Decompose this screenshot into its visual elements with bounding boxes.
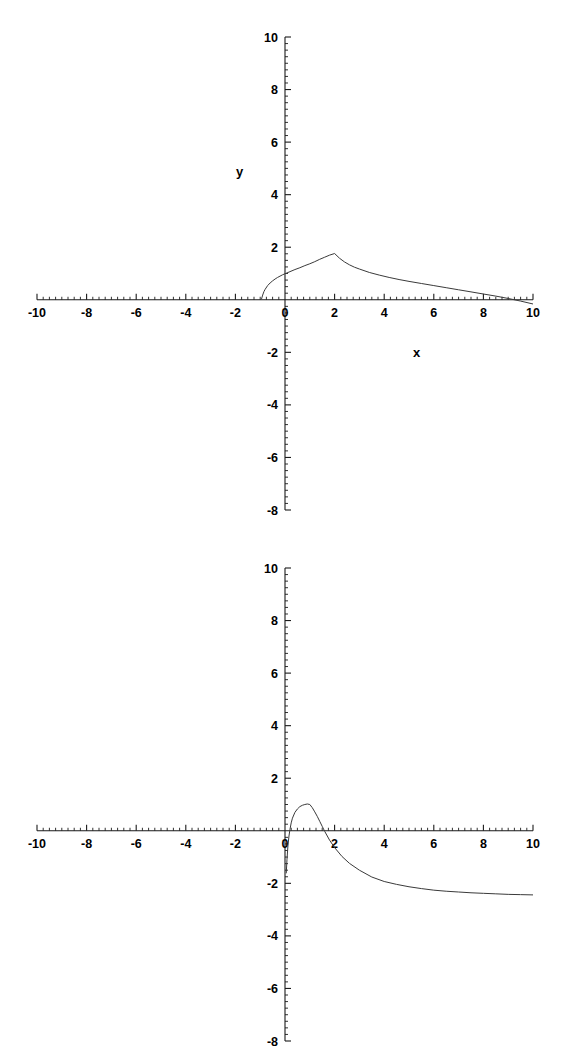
y-tick-label: 4 <box>271 719 278 733</box>
y-tick-label: 6 <box>271 136 278 150</box>
data-curve <box>261 254 533 304</box>
x-tick-label: 6 <box>430 837 437 851</box>
y-tick-label: -2 <box>267 877 278 891</box>
y-tick-label: 8 <box>271 614 278 628</box>
y-tick-label: 4 <box>271 188 278 202</box>
data-curve <box>286 804 533 895</box>
x-tick-label: -10 <box>28 306 46 320</box>
x-tick-label: -6 <box>131 306 142 320</box>
y-tick-label: 2 <box>271 772 278 786</box>
y-tick-label: -8 <box>267 504 278 518</box>
x-tick-label: 2 <box>331 306 338 320</box>
bottom-plot-svg: -10-8-6-4-20246810-8-6-4-2246810 <box>0 530 575 1046</box>
y-tick-label: -6 <box>267 451 278 465</box>
x-tick-label: -8 <box>81 306 92 320</box>
y-tick-label: 8 <box>271 83 278 97</box>
x-tick-label: -2 <box>230 306 241 320</box>
y-tick-label: 2 <box>271 241 278 255</box>
figure-canvas: -10-8-6-4-20246810-8-6-4-2246810 y x -10… <box>0 0 575 1046</box>
y-tick-label: 10 <box>264 562 278 576</box>
y-tick-label: -8 <box>267 1035 278 1046</box>
y-tick-label: -2 <box>267 346 278 360</box>
x-tick-label: 8 <box>480 306 487 320</box>
x-tick-label: -6 <box>131 837 142 851</box>
x-tick-label: 4 <box>381 306 388 320</box>
top-plot-x-axis-label: x <box>413 346 420 359</box>
x-tick-label: -2 <box>230 837 241 851</box>
x-tick-label: -10 <box>28 837 46 851</box>
x-tick-label: 6 <box>430 306 437 320</box>
top-plot-y-axis-label: y <box>236 165 243 178</box>
x-tick-label: -8 <box>81 837 92 851</box>
x-tick-label: 0 <box>282 306 289 320</box>
y-tick-label: -4 <box>267 929 278 943</box>
bottom-plot-panel: -10-8-6-4-20246810-8-6-4-2246810 y x <box>0 530 575 1046</box>
y-tick-label: -6 <box>267 982 278 996</box>
top-plot-svg: -10-8-6-4-20246810-8-6-4-2246810 <box>0 0 575 530</box>
x-tick-label: 10 <box>526 837 540 851</box>
y-tick-label: -4 <box>267 398 278 412</box>
x-tick-label: 8 <box>480 837 487 851</box>
y-tick-label: 6 <box>271 667 278 681</box>
y-tick-label: 10 <box>264 31 278 45</box>
top-plot-panel: -10-8-6-4-20246810-8-6-4-2246810 y x <box>0 0 575 530</box>
x-tick-label: 4 <box>381 837 388 851</box>
x-tick-label: 10 <box>526 306 540 320</box>
x-tick-label: -4 <box>180 306 191 320</box>
x-tick-label: -4 <box>180 837 191 851</box>
